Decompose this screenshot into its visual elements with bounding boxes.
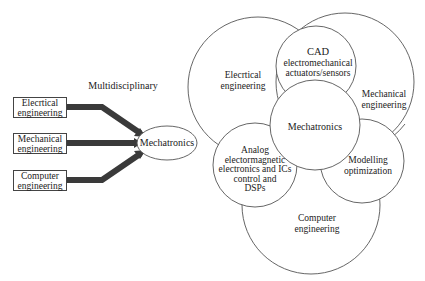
arrows	[67, 107, 140, 180]
input-box-line: Elecrtical	[14, 98, 66, 108]
arrow-electrical	[67, 107, 140, 133]
venn-label-modelling: Modelling optimization	[344, 155, 392, 177]
venn-label-cad: CAD electromechanical actuators/sensors	[283, 47, 352, 79]
multidisciplinary-label: Multidisciplinary	[88, 80, 157, 91]
input-box-line: engineering	[14, 181, 66, 191]
venn-label-mechatronics: Mechatronics	[288, 121, 342, 132]
input-box-line: Mechanical	[14, 134, 66, 144]
input-box-line: engineering	[14, 108, 66, 118]
venn-label-electrical: Elecrtical engineering	[221, 70, 266, 92]
venn-label-analog: Analog electormagnetic electronics and I…	[219, 146, 292, 194]
mechatronics-target-label: Mechatronics	[140, 137, 194, 148]
input-box-line: Computer	[14, 171, 66, 181]
venn-label-mechanical: Mechanical engineering	[362, 89, 407, 111]
input-box-computer: Computer engineering	[13, 170, 67, 191]
input-box-line: engineering	[14, 144, 66, 154]
input-box-electrical: Elecrtical engineering	[13, 97, 67, 118]
input-box-mechanical: Mechanical engineering	[13, 133, 67, 154]
arrow-computer	[67, 154, 140, 180]
venn-label-computer: Computer engineering	[295, 213, 340, 235]
